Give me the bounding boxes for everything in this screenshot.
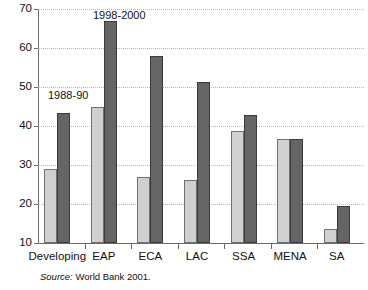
y-axis-tick-label: 20 xyxy=(19,198,32,210)
bar-group xyxy=(231,9,257,243)
x-axis-tick-label: SSA xyxy=(232,251,255,263)
x-axis-line xyxy=(38,243,364,244)
bar xyxy=(231,131,244,243)
series-annotation-1998-2000: 1998-2000 xyxy=(93,10,146,21)
y-axis-tick-mark xyxy=(34,243,38,244)
bar-group xyxy=(324,9,350,243)
bar-group xyxy=(277,9,303,243)
bar-group xyxy=(184,9,210,243)
x-axis-tick-mark xyxy=(317,243,318,249)
x-axis-tick-mark xyxy=(131,243,132,249)
x-axis-tick-mark xyxy=(178,243,179,249)
source-note: Source: World Bank 2001. xyxy=(40,272,151,282)
bar xyxy=(137,177,150,243)
x-axis-tick-mark xyxy=(271,243,272,249)
bar xyxy=(277,139,290,243)
y-axis-tick-label: 10 xyxy=(19,237,32,249)
source-value: World Bank 2001. xyxy=(75,271,150,282)
y-axis-tick-label: 40 xyxy=(19,120,32,132)
bar xyxy=(197,82,210,243)
bar xyxy=(184,180,197,243)
y-axis-tick-mark xyxy=(34,48,38,49)
x-axis-tick-label: LAC xyxy=(186,251,208,263)
bar-group xyxy=(44,9,70,243)
x-axis-tick-label: MENA xyxy=(274,251,307,263)
series-annotation-1988-90: 1988-90 xyxy=(48,90,88,101)
plot-area: 10203040506070 xyxy=(38,9,364,243)
bar-group xyxy=(137,9,163,243)
bar xyxy=(337,206,350,243)
bar xyxy=(244,115,257,243)
y-axis-tick-mark xyxy=(34,87,38,88)
bar xyxy=(150,56,163,243)
y-axis-tick-label: 50 xyxy=(19,81,32,93)
bar xyxy=(57,113,70,243)
bar xyxy=(324,229,337,243)
x-axis-tick-mark xyxy=(85,243,86,249)
y-axis-tick-label: 70 xyxy=(19,3,32,15)
x-axis-tick-label: ECA xyxy=(139,251,163,263)
y-axis-tick-mark xyxy=(34,9,38,10)
bar xyxy=(104,21,117,243)
y-axis-tick-mark xyxy=(34,126,38,127)
bar xyxy=(44,169,57,243)
bar-chart: 10203040506070 1988-90 1998-2000 Source:… xyxy=(0,0,368,290)
bar xyxy=(290,139,303,243)
x-axis-tick-label: Developing xyxy=(29,251,87,263)
x-axis-tick-label: SA xyxy=(329,251,344,263)
y-axis-tick-mark xyxy=(34,165,38,166)
bar xyxy=(91,107,104,244)
y-axis-tick-label: 30 xyxy=(19,159,32,171)
y-axis-tick-label: 60 xyxy=(19,42,32,54)
x-axis-tick-mark xyxy=(224,243,225,249)
x-axis-tick-label: EAP xyxy=(92,251,115,263)
y-axis-tick-mark xyxy=(34,204,38,205)
source-label: Source: xyxy=(40,271,73,282)
bar-group xyxy=(91,9,117,243)
